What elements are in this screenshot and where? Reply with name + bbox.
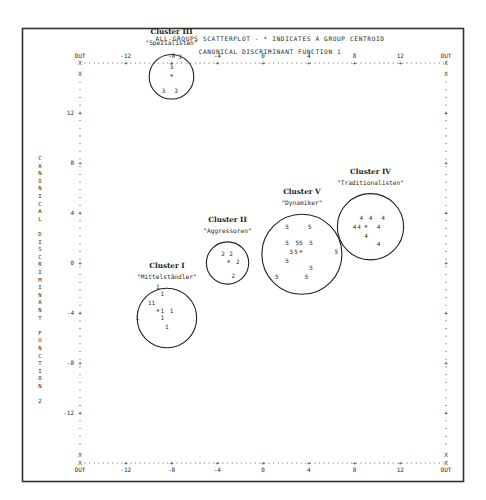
bottom-axis-dot [144,462,145,463]
y-tick-mark-right: + [444,409,448,416]
top-axis-dot [186,62,187,63]
bottom-axis-dot [167,462,168,463]
y-tick-label: 0 [70,259,74,266]
bottom-axis-dot [370,462,371,463]
bottom-axis-dot [425,462,426,463]
right-axis-dot [445,174,446,175]
left-axis-dot [79,166,80,167]
bottom-axis-dot [181,462,182,463]
y-tick-label: -12 [63,409,74,416]
top-axis-dot [140,62,141,63]
cluster-nickname-label: "Dynamiker" [281,199,322,207]
x-tick-label-bottom: -12 [120,466,131,473]
y-tick-mark-left: + [78,209,82,216]
bottom-axis-dot [245,462,246,463]
right-axis-dot [445,151,446,152]
bottom-axis-dot [282,462,283,463]
right-axis-dot [445,205,446,206]
x-tick-mark-top: + [215,59,219,66]
cluster-boundary-circle [137,288,196,347]
bottom-axis-dot [250,462,251,463]
cluster-nickname-label: "Traditionalisten" [337,179,404,186]
top-axis-dot [103,62,104,63]
x-tick-mark-bottom: + [261,459,265,466]
y-tick-mark-left: + [78,259,82,266]
y-tick-label: -8 [67,359,75,366]
bottom-axis-dot [324,462,325,463]
y-axis-title-char: N [38,307,41,313]
y-axis-title-char: N [38,185,41,191]
data-point: 4 [369,214,373,221]
y-axis-title-char: C [38,353,41,359]
x-tick-label-bottom: 8 [353,466,357,473]
top-axis-dot [439,62,440,63]
bottom-axis-dot [434,462,435,463]
bottom-axis-dot [103,462,104,463]
top-axis-dot [374,62,375,63]
x-tick-mark-bottom: + [170,459,174,466]
right-axis-dot [445,405,446,406]
right-axis-dot [445,374,446,375]
top-axis-dot [379,62,380,63]
right-axis-dot [445,243,446,244]
bottom-axis-dot [153,462,154,463]
right-axis-dot [445,389,446,390]
y-axis-title-char: L [38,216,42,222]
left-axis-dot [79,266,80,267]
top-axis-corner-x: X [78,59,82,66]
bottom-axis-dot [406,462,407,463]
left-axis-dot [79,220,80,221]
x-tick-label-bottom: -8 [168,466,176,473]
y-tick-label: 12 [67,109,75,116]
x-tick-mark-top: + [398,59,402,66]
right-axis-dot [445,420,446,421]
bottom-axis-dot [98,462,99,463]
data-point: 5 [275,273,279,280]
right-axis-dot [445,443,446,444]
bottom-axis-dot [273,462,274,463]
y-axis-title-char: R [38,261,42,267]
bottom-axis-dot [374,462,375,463]
y-axis-title-char: T [38,360,42,366]
data-point: 4 [377,223,381,230]
top-axis-dot [287,62,288,63]
bottom-axis-dot [296,462,297,463]
y-axis-title-char: D [38,231,42,237]
cluster-nickname-label: "Spezialisten" [145,39,197,47]
y-axis-title-char: I [38,284,41,290]
bottom-axis-dot [429,462,430,463]
cluster-name-label: Cluster III [151,27,194,36]
data-point: 3 [170,63,174,70]
left-axis-x-mark: X [78,70,82,77]
x-tick-label-top: OUT [75,52,86,59]
top-axis-dot [278,62,279,63]
right-axis-dot [445,235,446,236]
top-axis-dot [337,62,338,63]
top-axis-dot [383,62,384,63]
right-axis-dot [445,297,446,298]
right-axis-dot [445,81,446,82]
y-axis-title-char: T [38,315,42,321]
y-axis-title-char: S [38,246,41,252]
left-axis-dot [79,120,80,121]
y-tick-mark-right: + [444,109,448,116]
y-axis-title-char: A [38,208,42,214]
x-tick-mark-top: + [124,59,128,66]
y-tick-mark-left: + [78,359,82,366]
bottom-axis-dot [439,462,440,463]
y-tick-mark-left: + [78,309,82,316]
top-axis-dot [360,62,361,63]
bottom-axis-dot [190,462,191,463]
right-axis-dot [445,382,446,383]
cluster-1: Cluster I"Mittelständler"111111111* [135,261,196,347]
data-point: 2 [229,250,233,257]
top-axis-dot [255,62,256,63]
left-axis-dot [79,189,80,190]
top-axis-dot [163,62,164,63]
left-axis-dot [79,420,80,421]
bottom-axis-dot [255,462,256,463]
right-axis-dot [445,343,446,344]
left-axis-dot [79,97,80,98]
y-tick-label: 4 [70,209,74,216]
x-tick-label-bottom: 12 [397,466,405,473]
